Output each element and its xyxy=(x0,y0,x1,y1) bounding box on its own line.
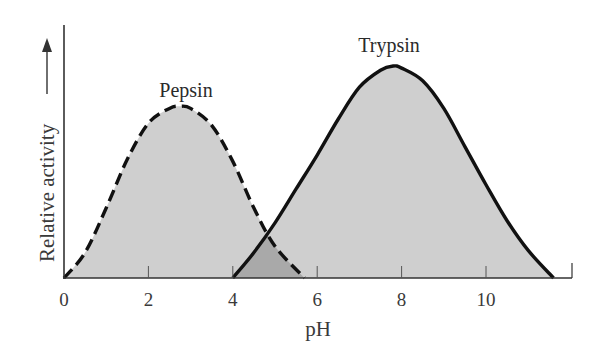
y-axis-title: Relative activity xyxy=(35,123,59,262)
pepsin-label: Pepsin xyxy=(159,79,212,102)
trypsin-label: Trypsin xyxy=(358,34,420,57)
x-tick-label: 0 xyxy=(59,289,69,310)
chart: 0246810 pH Relative activity Pepsin Tryp… xyxy=(0,0,597,353)
plot-area xyxy=(64,66,554,278)
trypsin-area xyxy=(233,66,554,278)
x-tick-label: 8 xyxy=(397,289,407,310)
x-tick-label: 4 xyxy=(228,289,238,310)
y-axis-title-group: Relative activity xyxy=(35,38,59,262)
x-tick-label: 10 xyxy=(477,289,496,310)
x-tick-label: 6 xyxy=(312,289,322,310)
x-axis-title: pH xyxy=(305,317,331,341)
x-tick-label: 2 xyxy=(144,289,154,310)
arrow-up-icon xyxy=(42,38,52,52)
